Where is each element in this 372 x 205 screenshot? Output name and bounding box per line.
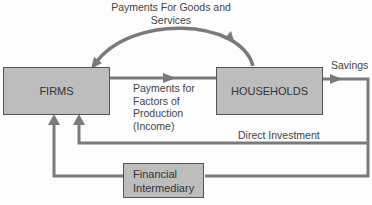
direct-investment-line — [79, 122, 368, 143]
households-node: HOUSEHOLDS — [216, 67, 323, 115]
savings-arrowhead — [330, 74, 342, 84]
firms-node: FIRMS — [3, 67, 110, 115]
firms-label: FIRMS — [39, 85, 73, 97]
financial-label-line1: Financial — [133, 167, 177, 181]
intermediary-arrowhead — [48, 114, 60, 125]
factors-label: Payments for Factors of Production (Inco… — [133, 82, 195, 132]
direct-investment-arrowhead — [73, 114, 85, 125]
goods-services-label: Payments For Goods and Services — [106, 1, 236, 26]
financial-label-line2: Intermediary — [133, 181, 194, 195]
intermediary-line — [54, 122, 123, 176]
households-label: HOUSEHOLDS — [231, 85, 308, 97]
financial-intermediary-node: Financial Intermediary — [123, 163, 204, 198]
circular-flow-diagram: FIRMS HOUSEHOLDS Financial Intermediary … — [0, 0, 372, 205]
savings-label: Savings — [331, 59, 368, 72]
direct-investment-label: Direct Investment — [238, 129, 320, 142]
